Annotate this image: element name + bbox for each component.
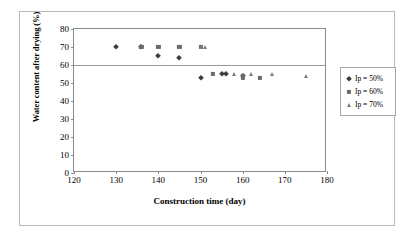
y-axis-title: Water content after drying (%)	[31, 0, 41, 147]
data-point	[203, 45, 207, 49]
legend-item: Ip = 50%	[345, 72, 392, 85]
y-axis-tick	[71, 119, 74, 120]
x-axis-tick-label: 180	[320, 175, 334, 185]
legend-item: Ip = 70%	[345, 98, 392, 111]
x-axis-tick	[201, 171, 202, 174]
y-axis-tick-label: 30	[60, 114, 69, 124]
y-axis-tick-label: 60	[60, 60, 69, 70]
x-axis-tick-label: 150	[194, 175, 208, 185]
x-axis-tick	[74, 171, 75, 174]
x-axis-tick	[285, 171, 286, 174]
x-axis-tick	[116, 171, 117, 174]
data-point	[304, 74, 308, 78]
y-axis-tick	[71, 137, 74, 138]
x-axis-tick-label: 130	[109, 175, 123, 185]
y-axis-tick-label: 10	[60, 150, 69, 160]
triangle-marker-icon	[345, 101, 353, 109]
gridline-60	[74, 65, 325, 66]
data-point	[257, 76, 261, 80]
x-axis-tick-label: 120	[67, 175, 81, 185]
square-marker-icon	[345, 88, 353, 96]
data-point	[270, 72, 274, 76]
legend-item-label: Ip = 50%	[355, 75, 383, 83]
y-axis-tick	[71, 47, 74, 48]
x-axis-tick	[327, 171, 328, 174]
x-axis-tick-label: 140	[152, 175, 166, 185]
data-point	[232, 72, 236, 76]
figure-canvas: Water content after drying (%) 010203040…	[0, 0, 414, 238]
y-axis-tick-label: 50	[60, 78, 69, 88]
data-point	[176, 55, 182, 61]
legend-item-label: Ip = 60%	[355, 88, 383, 96]
data-point	[197, 74, 203, 80]
y-axis-tick-label: 20	[60, 132, 69, 142]
data-point	[177, 45, 181, 49]
data-point	[139, 45, 143, 49]
data-point	[113, 44, 119, 50]
data-point	[211, 72, 215, 76]
legend-item: Ip = 60%	[345, 85, 392, 98]
diamond-marker-icon	[345, 75, 353, 83]
y-axis-tick-label: 80	[60, 24, 69, 34]
y-axis-tick	[71, 83, 74, 84]
x-axis-tick	[158, 171, 159, 174]
data-point	[223, 71, 229, 77]
data-point	[155, 53, 161, 59]
x-axis-tick	[243, 171, 244, 174]
y-axis-tick	[71, 29, 74, 30]
x-axis-tick-label: 160	[236, 175, 250, 185]
y-axis-tick-label: 40	[60, 96, 69, 106]
x-axis-tick-label: 170	[278, 175, 292, 185]
y-axis-tick-label: 70	[60, 42, 69, 52]
x-axis-title: Construction time (day)	[73, 196, 326, 206]
legend-item-label: Ip = 70%	[355, 101, 383, 109]
y-axis-tick	[71, 155, 74, 156]
data-point	[249, 72, 253, 76]
y-axis-tick	[71, 101, 74, 102]
data-point	[241, 76, 245, 80]
plot-area: 01020304050607080120130140150160170180	[73, 28, 326, 172]
chart-legend: Ip = 50%Ip = 60%Ip = 70%	[340, 67, 396, 116]
data-point	[156, 45, 160, 49]
